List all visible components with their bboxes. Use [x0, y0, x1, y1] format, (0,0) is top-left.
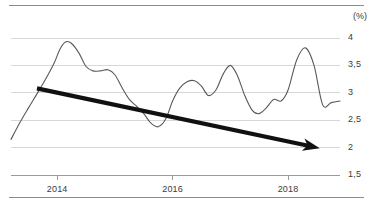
trend-arrow-group	[37, 88, 320, 150]
y-axis-tick-label: 1,5	[348, 169, 361, 179]
y-axis-tick-label: 2	[348, 142, 353, 152]
y-axis-tick-label: 4	[348, 32, 353, 42]
y-axis-tick-label: 2,5	[348, 114, 361, 124]
data-line-rate	[11, 41, 340, 139]
x-axis-tick-label: 2014	[37, 184, 77, 194]
y-axis-tick-label: 3,5	[348, 59, 361, 69]
chart-figure: (%) 43,532,521,5 201420162018	[0, 0, 373, 208]
line-chart-plot	[0, 0, 373, 208]
x-axis-tick-label: 2016	[153, 184, 193, 194]
y-axis-tick-label: 3	[348, 87, 353, 97]
trend-arrow-shaft	[37, 88, 310, 146]
x-axis-ticks-group	[57, 175, 288, 180]
data-series-group	[11, 41, 340, 139]
x-axis-tick-label: 2018	[268, 184, 308, 194]
gridlines-group	[11, 38, 340, 175]
